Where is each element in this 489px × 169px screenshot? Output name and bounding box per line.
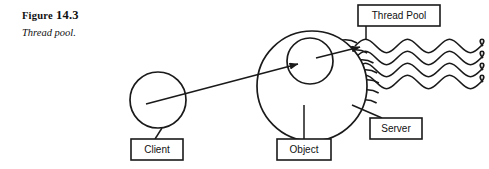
object-box-label: Object (290, 144, 319, 155)
client-circle (130, 72, 186, 128)
thread-pool-box: Thread Pool (358, 5, 440, 26)
server-box-label: Server (381, 123, 411, 134)
object-circle (287, 38, 333, 84)
thread-wave-4 (355, 75, 484, 89)
client-leader (155, 128, 162, 139)
thread-wave-2 (355, 51, 484, 65)
client-box-label: Client (144, 144, 170, 155)
object-box: Object (277, 139, 331, 160)
thread-pool-box-label: Thread Pool (372, 10, 426, 21)
client-box: Client (131, 139, 183, 160)
figure-container: Figure 14.3 Thread pool. Thread PoolClie… (0, 0, 489, 169)
thread-wave-1 (355, 39, 484, 53)
thread-wave-3 (355, 63, 484, 77)
server-box: Server (370, 118, 422, 139)
thread-pool-diagram: Thread PoolClientObjectServer (0, 0, 489, 169)
